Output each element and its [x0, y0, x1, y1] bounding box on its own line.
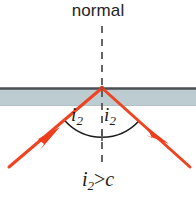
incidence-point	[100, 86, 104, 90]
optics-diagram: normal i2 i2 i2>c	[0, 0, 196, 201]
reflected-ray-arrowhead	[146, 127, 169, 144]
diagram-canvas	[0, 0, 196, 201]
incident-ray-arrowhead	[38, 127, 60, 150]
